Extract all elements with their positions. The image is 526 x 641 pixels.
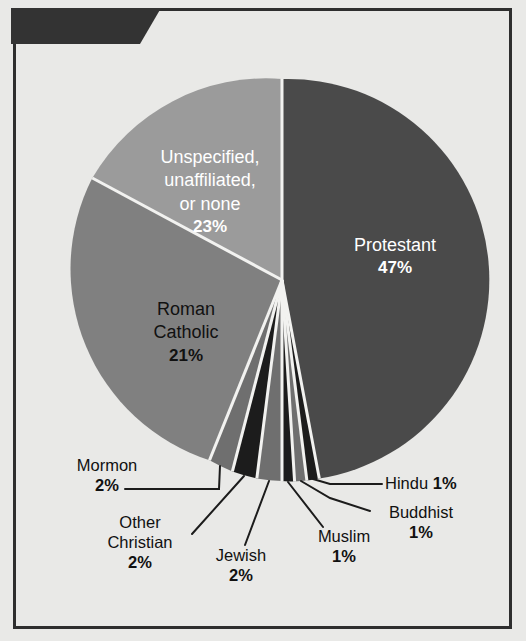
callout-muslim-pct: 1%: [299, 546, 389, 566]
callout-other-christian: Other Christian 2%: [88, 512, 192, 572]
leader-line-buddhist: [301, 481, 370, 511]
callout-other-christian-pct: 2%: [88, 552, 192, 572]
callout-buddhist: Buddhist 1%: [371, 502, 471, 542]
slice-label-roman-catholic-line2: Catholic: [153, 322, 218, 342]
section-banner: [11, 8, 161, 44]
leader-line-hindu: [313, 479, 382, 484]
callout-muslim-name: Muslim: [318, 527, 370, 545]
slice-label-protestant-name: Protestant: [354, 235, 436, 255]
callout-mormon-pct: 2%: [48, 475, 166, 495]
slice-label-unspecified-pct: 23%: [134, 216, 286, 238]
slice-label-unspecified: Unspecified, unaffiliated, or none 23%: [134, 146, 286, 238]
slice-label-roman-catholic-pct: 21%: [118, 345, 254, 367]
callout-other-christian-line1: Other: [119, 513, 160, 531]
callout-mormon-name: Mormon: [77, 456, 138, 474]
callout-hindu-name: Hindu: [385, 474, 428, 492]
slice-label-roman-catholic-line1: Roman: [157, 299, 215, 319]
slice-label-unspecified-line3: or none: [179, 194, 240, 214]
callout-hindu: Hindu 1%: [385, 473, 495, 493]
callout-buddhist-pct: 1%: [371, 522, 471, 542]
slice-label-protestant-pct: 47%: [330, 257, 460, 279]
callout-buddhist-name: Buddhist: [389, 503, 453, 521]
slice-label-unspecified-line1: Unspecified,: [160, 147, 259, 167]
religions-pie-chart: Protestant 47% Unspecified, unaffiliated…: [0, 0, 526, 641]
leader-line-jewish: [245, 481, 269, 545]
leader-line-other-christian: [192, 476, 244, 534]
slice-label-roman-catholic: Roman Catholic 21%: [118, 298, 254, 367]
callout-jewish: Jewish 2%: [196, 545, 286, 585]
callout-other-christian-line2: Christian: [107, 533, 172, 551]
leader-line-muslim: [288, 482, 323, 527]
slice-label-protestant: Protestant 47%: [330, 234, 460, 279]
slice-label-unspecified-line2: unaffiliated,: [164, 170, 256, 190]
callout-jewish-name: Jewish: [216, 546, 266, 564]
callout-jewish-pct: 2%: [196, 565, 286, 585]
callout-hindu-pct: 1%: [433, 474, 457, 492]
callout-mormon: Mormon 2%: [48, 455, 166, 495]
